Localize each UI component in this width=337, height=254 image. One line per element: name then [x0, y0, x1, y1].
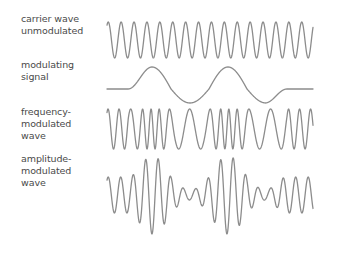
carrier-wave-curve — [107, 22, 313, 58]
am-wave-curve — [107, 158, 313, 234]
fm-wave-curve — [107, 109, 313, 149]
modulating-signal-curve — [107, 67, 313, 103]
waveform-diagram — [0, 0, 337, 254]
